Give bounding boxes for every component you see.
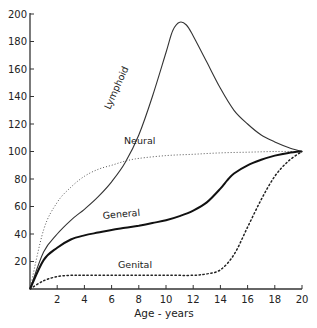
y-tick-label: 60 bbox=[14, 201, 27, 212]
x-tick-label: 2 bbox=[54, 294, 60, 305]
x-tick-label: 20 bbox=[296, 294, 309, 305]
x-tick-label: 6 bbox=[108, 294, 114, 305]
y-tick-label: 40 bbox=[14, 229, 27, 240]
y-tick-label: 80 bbox=[14, 174, 27, 185]
x-tick-label: 18 bbox=[268, 294, 281, 305]
y-tick-label: 140 bbox=[8, 91, 27, 102]
x-tick-label: 8 bbox=[136, 294, 142, 305]
x-tick-label: 14 bbox=[214, 294, 227, 305]
x-axis-title: Age - years bbox=[134, 307, 194, 319]
y-tick-label: 200 bbox=[8, 9, 27, 20]
x-tick-label: 12 bbox=[187, 294, 200, 305]
label-genital: Genital bbox=[118, 259, 152, 270]
label-lymphoid: Lymphoid bbox=[102, 64, 131, 110]
y-tick-label: 180 bbox=[8, 36, 27, 47]
curve-labels: Lymphoid Neural General Genital bbox=[102, 64, 156, 270]
label-general: General bbox=[102, 207, 140, 221]
x-tick-label: 4 bbox=[81, 294, 87, 305]
axes: 20406080100120140160180200 2468101214161… bbox=[8, 9, 308, 306]
y-tick-label: 120 bbox=[8, 119, 27, 130]
x-tick-label: 16 bbox=[241, 294, 254, 305]
curve-lymphoid bbox=[30, 22, 302, 289]
x-ticks: 2468101214161820 bbox=[54, 285, 308, 305]
growth-curves-chart: 20406080100120140160180200 2468101214161… bbox=[0, 0, 317, 328]
curves bbox=[30, 22, 302, 289]
x-tick-label: 10 bbox=[160, 294, 173, 305]
y-tick-label: 160 bbox=[8, 64, 27, 75]
y-tick-label: 20 bbox=[14, 256, 27, 267]
y-tick-label: 100 bbox=[8, 146, 27, 157]
label-neural: Neural bbox=[124, 135, 155, 146]
